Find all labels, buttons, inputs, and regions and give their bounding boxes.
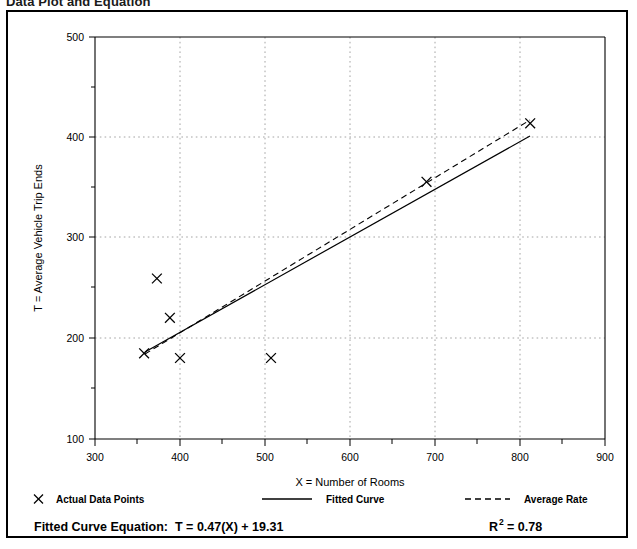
series-average-rate-line (145, 120, 530, 354)
legend-label-actual-data-points: Actual Data Points (56, 494, 145, 505)
fitted-curve-equation-value: T = 0.47(X) + 19.31 (175, 520, 283, 534)
series-fitted-curve-line (145, 136, 530, 352)
data-point-marker (266, 353, 276, 363)
r-squared-exponent: 2 (499, 517, 504, 527)
y-tick-label: 100 (66, 433, 84, 445)
x-axis-ticks (95, 439, 605, 446)
equation-row: Fitted Curve Equation: T = 0.47(X) + 19.… (34, 517, 542, 534)
page-title: Data Plot and Equation (6, 0, 150, 9)
legend-label-fitted-curve: Fitted Curve (326, 494, 385, 505)
data-point-marker (152, 274, 162, 284)
x-tick-label: 800 (511, 451, 529, 463)
x-tick-label: 900 (596, 451, 614, 463)
y-axis-tick-labels: 500 400 300 200 100 (66, 31, 84, 445)
y-axis-ticks (89, 37, 95, 439)
chart-figure-frame: 500 400 300 200 100 300 400 500 600 700 … (6, 10, 628, 538)
chart-legend: Actual Data Points Fitted Curve Average … (34, 494, 588, 505)
y-axis-title: T = Average Vehicle Trip Ends (32, 164, 44, 312)
r-squared-value: = 0.78 (507, 520, 542, 534)
series-actual-data-points (139, 118, 535, 363)
y-tick-label: 200 (66, 332, 84, 344)
x-tick-label: 500 (256, 451, 274, 463)
data-point-marker (139, 348, 149, 358)
x-tick-label: 400 (171, 451, 189, 463)
legend-label-average-rate: Average Rate (524, 494, 588, 505)
r-squared-symbol: R (489, 520, 498, 534)
x-tick-label: 300 (86, 451, 104, 463)
data-point-marker (525, 118, 535, 128)
fitted-curve-equation-label: Fitted Curve Equation: (34, 520, 168, 534)
data-point-marker (165, 313, 175, 323)
x-tick-label: 600 (341, 451, 359, 463)
x-axis-title: X = Number of Rooms (295, 476, 405, 488)
data-point-marker (422, 177, 432, 187)
x-axis-tick-labels: 300 400 500 600 700 800 900 (86, 451, 614, 463)
grid-lines (95, 37, 605, 439)
y-tick-label: 300 (66, 231, 84, 243)
legend-marker-actual-data-points-icon (34, 495, 43, 504)
y-tick-label: 400 (66, 131, 84, 143)
x-tick-label: 700 (426, 451, 444, 463)
data-plot-chart: 500 400 300 200 100 300 400 500 600 700 … (8, 12, 626, 536)
y-tick-label: 500 (66, 31, 84, 43)
